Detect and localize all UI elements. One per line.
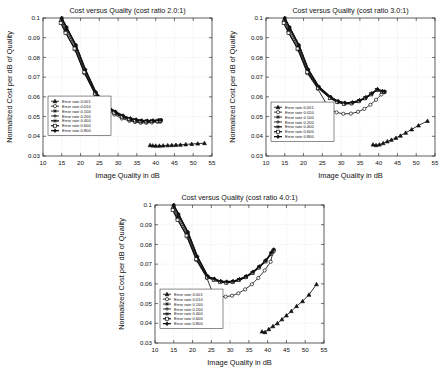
data-marker-circle [165,298,168,301]
x-tick-label: 50 [413,159,420,166]
y-tick-label: 0.07 [251,73,264,80]
y-tick-label: 0.05 [251,113,264,120]
data-marker-triangle [417,124,421,127]
data-marker-triangle [390,138,394,141]
data-marker-circle [250,283,253,286]
y-axis-label: Normalized Cost per dB of Quality [5,31,14,143]
x-tick-label: 35 [356,159,363,166]
data-marker-square [59,21,62,24]
x-tick-label: 15 [58,159,65,166]
y-axis: 0.030.040.050.060.070.080.090.1 [28,14,212,159]
data-marker-circle [230,294,233,297]
series-error-rate-0-800 [283,16,386,105]
series-error-rate-0-600 [171,208,275,284]
x-tick-label: 50 [302,346,309,353]
x-axis-label: Image Quality in dB [95,171,160,180]
y-tick-label: 0.04 [140,319,153,326]
chart-panel-cost-ratio-2: 101520253035404550550.030.040.050.060.07… [0,0,223,190]
data-marker-triangle [166,143,170,146]
y-tick-label: 0.04 [251,132,264,139]
x-tick-label: 15 [281,159,288,166]
x-tick-label: 55 [432,159,439,166]
chart-legend: Error rate 0.001Error rate 0.010Error ra… [48,96,111,135]
x-tick-label: 45 [283,346,290,353]
series-error-rate-0-010 [171,206,274,298]
data-marker-square [73,47,76,50]
y-axis-label: Normalized Cost per dB of Quality [117,218,126,330]
series-error-rate-0-001 [371,119,429,147]
data-marker-square [296,47,299,50]
data-marker-circle [374,98,377,101]
data-marker-square [176,218,179,221]
legend-label: Error rate 0.800 [174,321,203,326]
data-marker-triangle [158,144,162,147]
y-tick-label: 0.04 [28,132,41,139]
data-marker-triangle [404,131,408,134]
data-marker-square [171,208,174,211]
x-axis: 10152025303540455055 [263,18,439,166]
x-tick-label: 20 [77,159,84,166]
chart-svg: 101520253035404550550.030.040.050.060.07… [0,0,223,190]
chart-svg: 101520253035404550550.030.040.050.060.07… [223,0,446,190]
data-marker-square [282,21,285,24]
chart-legend: Error rate 0.001Error rate 0.010Error ra… [160,289,223,328]
chart-legend: Error rate 0.001Error rate 0.010Error ra… [271,102,334,141]
data-marker-circle [244,288,247,291]
y-tick-label: 0.06 [140,280,153,287]
chart-panel-cost-ratio-4: 101520253035404550550.030.040.050.060.07… [112,187,335,377]
y-tick-label: 0.09 [28,34,41,41]
series-error-rate-0-800 [172,203,275,283]
y-tick-label: 0.09 [140,221,153,228]
data-marker-triangle [426,119,430,122]
y-tick-label: 0.07 [28,73,41,80]
y-tick-label: 0.09 [251,34,264,41]
x-tick-label: 55 [209,159,216,166]
data-marker-triangle [399,134,403,137]
data-marker-square [276,130,279,133]
data-marker-triangle [184,142,188,145]
x-tick-label: 40 [375,159,382,166]
data-marker-square [165,317,168,320]
y-tick-label: 0.03 [28,152,41,159]
data-marker-circle [356,110,359,113]
x-tick-label: 55 [321,346,328,353]
data-marker-circle [276,111,279,114]
series-error-rate-0-100 [172,205,276,285]
data-marker-circle [237,292,240,295]
y-tick-label: 0.1 [31,14,40,21]
data-marker-triangle [154,144,158,147]
chart-title: Cost versus Quality (cost ratio 2.0:1) [69,6,185,15]
y-tick-label: 0.1 [254,14,263,21]
x-tick-label: 30 [338,159,345,166]
series-error-rate-0-010 [282,19,385,115]
series-error-rate-0-200 [172,204,276,284]
data-marker-circle [269,260,272,263]
data-marker-circle [369,103,372,106]
y-tick-label: 0.08 [251,54,264,61]
data-marker-circle [263,269,266,272]
chart-panel-cost-ratio-3: 101520253035404550550.030.040.050.060.07… [223,0,446,190]
data-marker-square [287,31,290,34]
data-marker-star [53,109,57,113]
chart-svg: 101520253035404550550.030.040.050.060.07… [112,187,335,377]
x-tick-label: 35 [133,159,140,166]
data-marker-triangle [161,144,165,147]
series-error-rate-0-001 [260,282,318,333]
y-tick-label: 0.1 [143,201,152,208]
data-marker-circle [53,105,56,108]
x-tick-label: 40 [264,346,271,353]
y-tick-label: 0.08 [140,241,153,248]
data-marker-circle [224,295,227,298]
data-marker-triangle [381,141,385,144]
series-error-rate-0-001 [148,141,206,147]
legend-label: Error rate 0.800 [62,128,91,133]
legend-label: Error rate 0.800 [285,134,314,139]
data-marker-triangle [170,143,174,146]
data-marker-square [185,234,188,237]
data-marker-triangle [385,140,389,143]
x-tick-label: 10 [40,159,47,166]
chart-title: Cost versus Quality (cost ratio 4.0:1) [181,193,297,202]
data-marker-circle [349,112,352,115]
x-axis-label: Image Quality in dB [318,171,383,180]
data-marker-square [64,31,67,34]
